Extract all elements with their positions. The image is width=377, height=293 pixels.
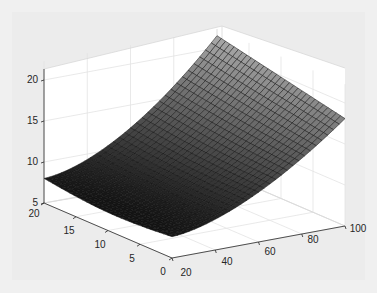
z-tick-label: 10 <box>27 156 39 167</box>
x-tick-label: 100 <box>350 223 367 234</box>
y-tick-label: 0 <box>160 266 166 277</box>
x-tick-label: 40 <box>221 256 233 267</box>
x-tick-label: 60 <box>264 246 276 257</box>
z-tick-label: 5 <box>32 197 38 208</box>
y-tick-label: 10 <box>94 239 106 250</box>
x-tick-label: 80 <box>307 234 319 245</box>
x-tick-label: 20 <box>180 267 192 278</box>
y-tick-label: 15 <box>63 225 75 236</box>
y-tick-label: 20 <box>28 208 40 219</box>
z-tick-label: 20 <box>27 74 39 85</box>
y-tick-label: 5 <box>129 253 135 264</box>
z-tick-label: 15 <box>27 115 39 126</box>
surface-plot: 5 10 15 20 0 5 10 15 20 20 40 60 80 100 <box>0 0 377 293</box>
